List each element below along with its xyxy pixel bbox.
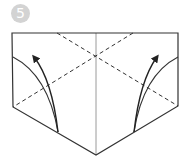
valley-fold-line-left: [57, 33, 178, 106]
origami-fold-diagram: [0, 0, 188, 165]
paper-outline: [12, 33, 178, 155]
